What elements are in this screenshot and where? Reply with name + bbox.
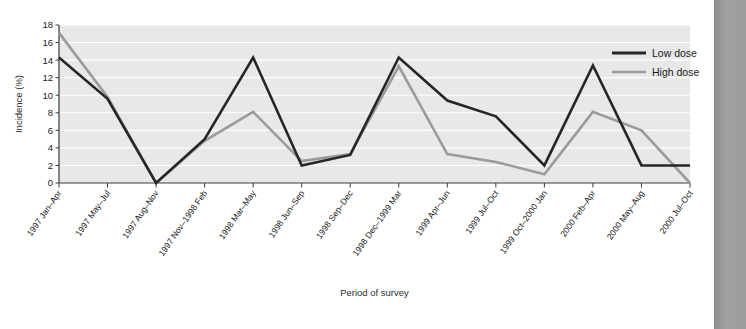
x-axis-title: Period of survey bbox=[340, 287, 409, 298]
incidence-line-chart: 024681012141618Incidence (%)1997 Jan–Apr… bbox=[0, 0, 714, 329]
page-edge-band-gradient bbox=[714, 0, 746, 329]
y-tick-label: 14 bbox=[42, 55, 53, 66]
x-tick-label: 2000 Jul–Oct bbox=[657, 188, 695, 236]
y-axis: 024681012141618 bbox=[42, 19, 59, 188]
x-tick-label: 1999 Jul–Oct bbox=[463, 188, 501, 236]
x-tick-label: 2000 May–Aug bbox=[605, 188, 646, 241]
x-tick-label: 1999 Apr–Jun bbox=[413, 188, 452, 237]
y-tick-label: 2 bbox=[48, 160, 53, 171]
x-tick-label: 1997 Jan–Apr bbox=[25, 188, 64, 238]
x-tick-label: 1999 Oct–2000 Jan bbox=[498, 188, 549, 255]
y-tick-label: 4 bbox=[48, 142, 53, 153]
legend-label: Low dose bbox=[652, 47, 697, 59]
x-tick-label: 1998 Mar–May bbox=[217, 188, 258, 241]
x-tick-label: 1998 Jun–Sep bbox=[266, 188, 306, 239]
y-tick-label: 16 bbox=[42, 37, 53, 48]
y-tick-label: 18 bbox=[42, 19, 53, 30]
x-tick-labels: 1997 Jan–Apr1997 May–Jul1997 Aug–Nov1997… bbox=[25, 188, 695, 258]
y-tick-label: 8 bbox=[48, 107, 53, 118]
y-axis-title: Incidence (%) bbox=[13, 75, 24, 133]
y-tick-label: 12 bbox=[42, 72, 53, 83]
figure-canvas: 024681012141618Incidence (%)1997 Jan–Apr… bbox=[0, 0, 714, 329]
x-tick-label: 1998 Sep–Dec bbox=[314, 188, 355, 241]
legend-label: High dose bbox=[652, 66, 699, 78]
chart-plot-area: 024681012141618Incidence (%)1997 Jan–Apr… bbox=[0, 0, 714, 329]
x-tick-label: 1997 Aug–Nov bbox=[120, 188, 161, 240]
y-tick-label: 0 bbox=[48, 177, 53, 188]
page-edge-band bbox=[714, 0, 746, 329]
y-tick-label: 10 bbox=[42, 90, 53, 101]
x-axis bbox=[59, 183, 690, 188]
y-tick-label: 6 bbox=[48, 125, 53, 136]
x-tick-label: 1997 May–Jul bbox=[73, 188, 112, 238]
x-tick-label: 1998 Dec–1999 Mar bbox=[351, 188, 404, 258]
x-tick-label: 2000 Feb–Apr bbox=[558, 188, 598, 238]
x-tick-label: 1997 Nov–1998 Feb bbox=[156, 188, 209, 258]
